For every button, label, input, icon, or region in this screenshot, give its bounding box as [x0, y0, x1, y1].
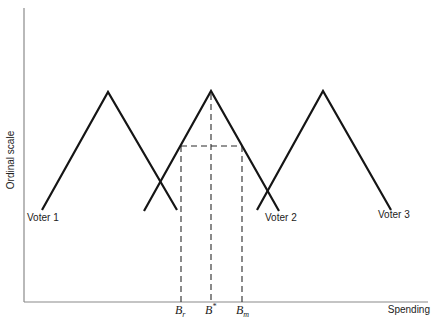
- single-peaked-preferences-diagram: Ordinal scale Spending Voter 1 Voter 2 V…: [0, 0, 434, 321]
- b-star-label: B*: [205, 302, 216, 317]
- b-m-label: Bm: [236, 303, 249, 319]
- b-r-label: Br: [175, 303, 186, 319]
- voter-3-label: Voter 3: [378, 209, 410, 220]
- voter-2-label: Voter 2: [265, 212, 297, 223]
- voter-1-label: Voter 1: [27, 212, 59, 223]
- voter-1-curve: [42, 92, 177, 210]
- y-axis-label: Ordinal scale: [5, 130, 16, 189]
- voter-3-curve: [257, 91, 391, 210]
- x-axis-label: Spending: [388, 304, 430, 315]
